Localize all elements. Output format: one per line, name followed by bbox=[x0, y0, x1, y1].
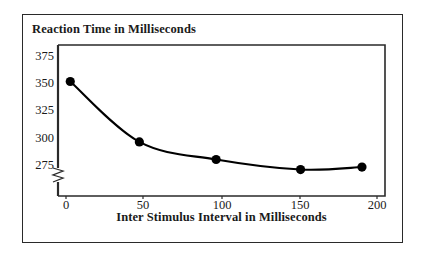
plot-frame bbox=[58, 45, 385, 196]
y-tick-label-300: 300 bbox=[20, 132, 54, 145]
data-point bbox=[357, 162, 366, 171]
y-axis-break-icon bbox=[53, 168, 63, 182]
y-tick-label-350: 350 bbox=[20, 77, 54, 90]
x-axis-title: Inter Stimulus Interval in Milliseconds bbox=[58, 210, 385, 224]
y-tick-label-325: 325 bbox=[20, 104, 54, 117]
data-point bbox=[296, 165, 305, 174]
y-tick-label-275: 275 bbox=[20, 159, 54, 172]
y-tick-label-375: 375 bbox=[20, 50, 54, 63]
data-point bbox=[66, 77, 75, 86]
data-point bbox=[212, 155, 221, 164]
data-points bbox=[66, 77, 367, 174]
chart-figure: Reaction Time in Milliseconds 375 350 32… bbox=[0, 0, 423, 256]
data-point bbox=[135, 137, 144, 146]
